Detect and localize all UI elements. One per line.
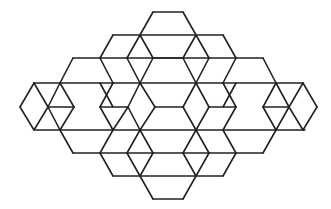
hexagon-cube-diagram [0, 0, 331, 209]
